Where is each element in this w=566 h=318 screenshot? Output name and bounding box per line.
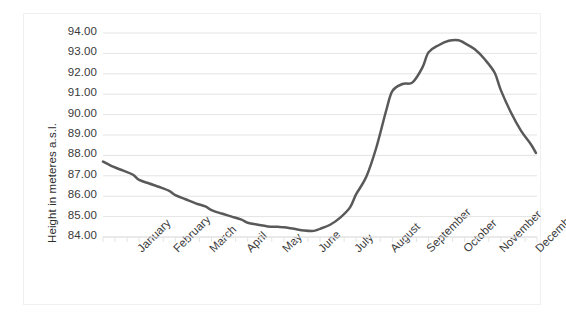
plot-area: [0, 0, 566, 318]
line-chart: Height in meteres a.s.l. 94.0093.0092.00…: [0, 0, 566, 318]
x-axis-minor-ticks: [103, 237, 537, 242]
gridlines: [103, 33, 537, 237]
